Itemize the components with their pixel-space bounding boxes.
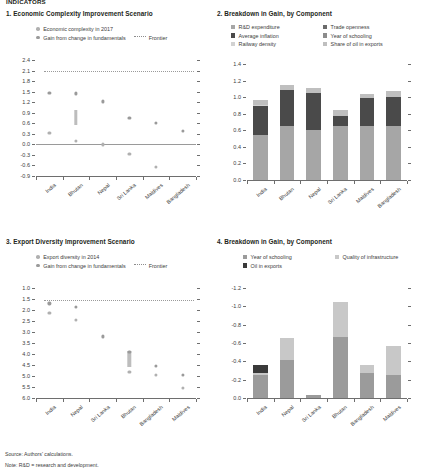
legend-dot-icon bbox=[36, 36, 40, 40]
legend-label: Gain from change in fundamentals bbox=[43, 35, 125, 41]
bar-segment bbox=[280, 126, 295, 180]
panel-1: 1. Economic Complexity Improvement Scena… bbox=[0, 10, 211, 230]
bar-segment bbox=[386, 126, 401, 180]
bar-segment bbox=[386, 346, 401, 375]
y-axis-tick-right bbox=[197, 144, 200, 145]
legend-label: Gain from change in fundamentals bbox=[43, 263, 125, 269]
x-axis-tick bbox=[196, 399, 197, 402]
y-axis-label: -0.6 bbox=[6, 162, 30, 168]
x-axis-tick bbox=[300, 399, 301, 402]
legend-item: R&D expenditure bbox=[231, 24, 315, 30]
data-point bbox=[74, 305, 77, 308]
y-axis-tick-right bbox=[197, 176, 200, 177]
y-axis-label: 5.0 bbox=[6, 373, 30, 379]
x-axis-tick bbox=[274, 399, 275, 402]
panel-3-legend: Export diversity in 2014Gain from change… bbox=[36, 254, 175, 271]
y-axis-tick-right bbox=[197, 113, 200, 114]
bar-segment bbox=[280, 90, 295, 126]
y-axis-tick-right bbox=[408, 398, 411, 399]
bar-segment bbox=[360, 98, 375, 126]
x-axis-category-label: Bangladesh bbox=[375, 186, 402, 210]
panel-2: 2. Breakdown in Gain, by Component R&D e… bbox=[211, 10, 422, 230]
panel-4-title: 4. Breakdown in Gain, by Component bbox=[217, 238, 332, 245]
figure-page: INDICATORS 1. Economic Complexity Improv… bbox=[0, 0, 422, 474]
data-point bbox=[74, 318, 77, 321]
bar-segment bbox=[253, 375, 268, 398]
data-point bbox=[128, 370, 131, 373]
y-axis-tick-right bbox=[197, 102, 200, 103]
panel-4-legend: Year of schoolingQuality of infrastructu… bbox=[243, 254, 422, 271]
y-axis-tick bbox=[32, 354, 35, 355]
y-axis-tick bbox=[243, 163, 246, 164]
legend-dot-icon bbox=[36, 264, 40, 268]
legend-item: Gain from change in fundamentals bbox=[36, 35, 126, 41]
panel-4: 4. Breakdown in Gain, by Component Year … bbox=[211, 238, 422, 443]
x-axis-tick bbox=[89, 177, 90, 180]
y-axis-label: 3.0 bbox=[6, 329, 30, 335]
x-axis-tick bbox=[89, 399, 90, 402]
y-axis-label: 1.0 bbox=[217, 94, 241, 100]
bar-segment bbox=[333, 302, 348, 337]
legend-swatch-icon bbox=[231, 42, 235, 46]
legend-label: Share of oil in exports bbox=[331, 41, 383, 47]
y-axis-label: -0.2 bbox=[217, 377, 241, 383]
panel-1-legend: Economic complexity in 2017Gain from cha… bbox=[36, 26, 175, 43]
data-point bbox=[181, 387, 184, 390]
legend-swatch-icon bbox=[335, 255, 339, 259]
y-axis-tick-right bbox=[197, 321, 200, 322]
bar-segment bbox=[253, 373, 268, 375]
data-point bbox=[48, 91, 51, 94]
y-axis-tick bbox=[32, 299, 35, 300]
y-axis-tick bbox=[32, 387, 35, 388]
x-axis-category-label: Bhutan bbox=[321, 404, 348, 428]
y-axis-tick-right bbox=[408, 325, 411, 326]
figure-top-title: INDICATORS bbox=[6, 0, 46, 5]
data-point bbox=[101, 143, 104, 146]
x-axis-tick bbox=[116, 399, 117, 402]
bar-segment bbox=[280, 85, 295, 90]
y-axis-tick bbox=[32, 176, 35, 177]
frontier-line bbox=[44, 71, 194, 72]
y-axis-label: 1.2 bbox=[6, 99, 30, 105]
bar-stack bbox=[333, 58, 348, 180]
bar-segment bbox=[306, 93, 321, 130]
bar-segment bbox=[386, 91, 401, 97]
bar-segment bbox=[253, 100, 268, 105]
y-axis-label: -1.0 bbox=[217, 303, 241, 309]
y-axis-label: -0.8 bbox=[217, 322, 241, 328]
x-axis-category-label: India bbox=[30, 404, 57, 428]
legend-label: Economic complexity in 2017 bbox=[43, 26, 113, 32]
legend-dot-icon bbox=[36, 27, 40, 31]
x-axis-tick bbox=[354, 181, 355, 184]
y-axis-label: 1.4 bbox=[217, 61, 241, 67]
legend-label: Export diversity in 2014 bbox=[43, 254, 99, 260]
legend-label: Quality of infrastructure bbox=[343, 254, 399, 260]
y-axis-tick bbox=[32, 376, 35, 377]
x-axis-tick bbox=[380, 181, 381, 184]
bar-segment bbox=[306, 88, 321, 93]
bar-segment bbox=[280, 338, 295, 360]
bar-segment bbox=[360, 373, 375, 398]
y-axis-tick-right bbox=[408, 288, 411, 289]
bar-stack bbox=[306, 58, 321, 180]
y-axis-label: 1.0 bbox=[6, 285, 30, 291]
legend-item: Share of oil in exports bbox=[323, 41, 407, 47]
legend-swatch-icon bbox=[243, 255, 247, 259]
panel-3-title: 3. Export Diversity Improvement Scenario bbox=[6, 238, 135, 245]
y-axis-tick bbox=[32, 398, 35, 399]
bar-segment bbox=[253, 365, 268, 373]
zero-line bbox=[36, 144, 196, 145]
y-axis-tick-right bbox=[197, 299, 200, 300]
y-axis-tick-right bbox=[408, 64, 411, 65]
x-axis-category-label: Sri Lanka bbox=[84, 404, 111, 428]
x-axis-category-label: Bhutan bbox=[110, 404, 137, 428]
y-axis-tick bbox=[32, 321, 35, 322]
y-axis-tick bbox=[32, 123, 35, 124]
x-axis-tick bbox=[327, 181, 328, 184]
x-axis-category-label: Sri Lanka bbox=[110, 182, 137, 206]
y-axis-label: 2.1 bbox=[6, 68, 30, 74]
x-axis-tick bbox=[247, 181, 248, 184]
bar-segment bbox=[306, 395, 321, 398]
y-axis-label: 0.4 bbox=[217, 144, 241, 150]
y-axis-tick-right bbox=[197, 354, 200, 355]
